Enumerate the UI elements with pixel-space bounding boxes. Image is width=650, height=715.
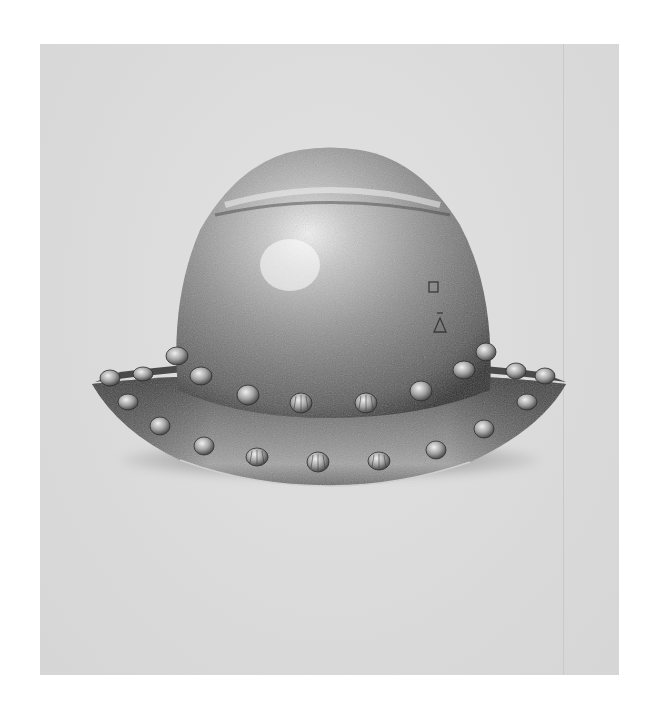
helmet-image: [0, 0, 650, 715]
